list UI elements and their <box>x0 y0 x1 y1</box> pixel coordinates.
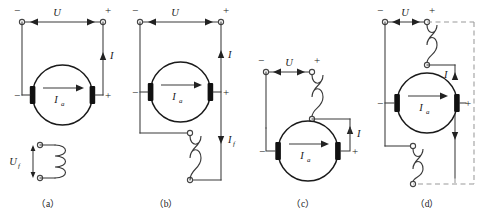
circuit-a-u-arrow-left <box>30 19 38 26</box>
circuit-b-supply-label: U <box>171 7 180 18</box>
circuit-c-caption: （c） <box>291 198 315 209</box>
circuit-b-field-coil <box>190 136 201 180</box>
circuit-a-armature-minus: − <box>14 89 20 101</box>
circuit-d-caption: （d） <box>415 198 440 209</box>
circuit-a-field-coil <box>55 145 66 178</box>
circuit-c: U − + I I a − + （c） <box>258 54 361 209</box>
circuit-c-line-current-label: I <box>356 128 361 139</box>
circuit-b-field-current-arrow <box>218 136 224 144</box>
circuit-diagram-canvas: U − + I I a − + U f （a） <box>0 0 482 218</box>
circuit-b-armature-plus: + <box>223 86 229 98</box>
circuit-c-supply-plus: + <box>314 54 320 66</box>
circuit-d-bottom-coil-terminal-top <box>410 143 415 148</box>
circuit-b-armature-circle <box>151 62 211 122</box>
circuit-a-line-current-arrow <box>100 52 106 60</box>
circuit-d-armature-label-sub: a <box>426 108 430 116</box>
circuit-c-u-arrow-left <box>273 69 281 76</box>
circuit-c-supply-minus: − <box>258 54 264 66</box>
circuit-b-u-arrow-left <box>148 19 156 26</box>
circuit-b-line-current-arrow <box>218 50 224 58</box>
circuit-b-armature-minus: − <box>132 86 138 98</box>
circuit-d-supply-minus: − <box>377 4 383 16</box>
circuit-d-u-arrow-left <box>392 19 400 26</box>
circuit-b-field-current-label-sub: f <box>233 140 236 148</box>
circuit-a-supply-label: U <box>53 7 62 18</box>
circuit-d-top-coil <box>427 25 437 63</box>
circuit-d-supply-plus: + <box>429 4 435 16</box>
circuit-b-field-current-label: I <box>227 134 232 145</box>
circuit-b-brush-right <box>208 83 214 101</box>
circuit-a-field-voltage-label-sub: f <box>18 162 21 170</box>
circuit-b-supply-plus: + <box>223 4 229 16</box>
figure-root: U − + I I a − + U f （a） <box>0 0 482 218</box>
circuit-b-supply-minus: − <box>132 4 138 16</box>
circuit-a-line-current-label: I <box>109 50 114 61</box>
circuit-d-brush-left <box>394 94 400 112</box>
circuit-d-line-current-label: I <box>443 69 448 80</box>
circuit-b-armature-label-sub: a <box>179 97 183 105</box>
circuit-b: U − + I I f I a − + （b） <box>132 4 236 209</box>
circuit-a-supply-plus: + <box>105 4 111 16</box>
circuit-a-armature-circle <box>33 65 93 125</box>
circuit-a-uf-arrow-bottom <box>31 172 36 178</box>
circuit-a-armature-label: I <box>53 94 58 105</box>
circuit-d-armature-label: I <box>418 102 423 113</box>
circuit-b-u-arrow-right <box>205 19 213 26</box>
circuit-c-armature-label: I <box>299 150 304 161</box>
circuit-a-brush-left <box>30 86 36 104</box>
circuit-d-armature-circle <box>397 73 457 133</box>
circuit-a: U − + I I a − + U f （a） <box>9 4 114 209</box>
circuit-c-supply-label: U <box>285 57 294 68</box>
circuit-c-armature-plus: + <box>352 145 358 157</box>
circuit-c-u-arrow-right <box>297 69 305 76</box>
circuit-b-brush-left <box>148 83 154 101</box>
circuit-c-brush-right <box>335 142 341 160</box>
circuit-b-caption: （b） <box>154 198 179 209</box>
circuit-a-uf-arrow-top <box>31 145 36 151</box>
circuit-d: U − + I I a − + （d） <box>377 4 474 209</box>
circuit-c-field-coil <box>312 75 323 117</box>
circuit-b-line-current-label: I <box>227 49 232 60</box>
circuit-d-armature-plus: + <box>465 97 471 109</box>
circuit-d-supply-label: U <box>401 7 410 18</box>
circuit-d-lower-current-arrow <box>452 132 458 140</box>
circuit-c-armature-label-sub: a <box>307 156 311 164</box>
circuit-a-supply-minus: − <box>14 4 20 16</box>
circuit-b-field-terminal-top <box>187 130 192 135</box>
circuit-c-armature-circle <box>278 121 338 181</box>
circuit-b-armature-label: I <box>171 91 176 102</box>
circuit-d-u-arrow-right <box>412 19 420 26</box>
circuit-a-brush-right <box>90 86 96 104</box>
circuit-c-brush-lead-left <box>266 128 275 151</box>
circuit-d-armature-minus: − <box>377 97 383 109</box>
circuit-c-brush-left <box>275 142 281 160</box>
circuit-a-field-voltage-label: U <box>9 156 18 167</box>
circuit-d-bottom-coil <box>413 149 423 182</box>
circuit-a-caption: （a） <box>36 198 60 209</box>
circuit-d-line-current-arrow <box>452 72 458 80</box>
circuit-c-armature-minus: − <box>259 145 265 157</box>
circuit-a-armature-plus: + <box>105 89 111 101</box>
circuit-d-brush-right <box>454 94 460 112</box>
circuit-a-armature-label-sub: a <box>61 100 65 108</box>
circuit-a-u-arrow-right <box>87 19 95 26</box>
circuit-c-terminal-plus <box>309 69 314 74</box>
